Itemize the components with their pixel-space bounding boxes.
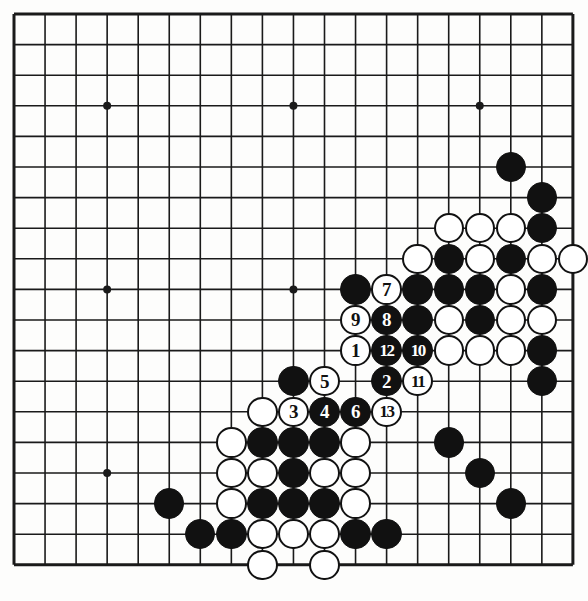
stone-black <box>309 488 339 518</box>
star-point <box>103 469 111 477</box>
stone-white <box>496 305 526 335</box>
stone-black <box>278 458 308 488</box>
numbered-stone-9-white: 9 <box>340 305 370 335</box>
stone-white <box>434 213 464 243</box>
stone-black <box>278 488 308 518</box>
numbered-stone-10-black: 10 <box>402 335 432 365</box>
stone-white <box>278 519 308 549</box>
stone-white <box>340 427 370 457</box>
numbered-stone-7-white: 7 <box>371 274 401 304</box>
stone-black <box>278 427 308 457</box>
stone-black <box>496 244 526 274</box>
stone-black <box>402 305 432 335</box>
numbered-stone-13-white: 13 <box>371 397 401 427</box>
stone-black <box>434 274 464 304</box>
numbered-stone-1-white: 1 <box>340 335 370 365</box>
stone-white <box>216 458 246 488</box>
stone-move-number: 10 <box>411 342 425 359</box>
star-point <box>289 102 297 110</box>
stone-black <box>247 427 277 457</box>
numbered-stone-12-black: 12 <box>371 335 401 365</box>
stone-black <box>278 366 308 396</box>
star-point <box>103 102 111 110</box>
numbered-stone-4-black: 4 <box>309 397 339 427</box>
stone-white <box>340 488 370 518</box>
stone-black <box>434 244 464 274</box>
stone-black <box>465 274 495 304</box>
stone-white <box>340 458 370 488</box>
stone-white <box>309 550 339 580</box>
star-point <box>289 285 297 293</box>
stone-move-number: 2 <box>382 372 391 391</box>
stone-move-number: 4 <box>320 402 329 421</box>
stone-white <box>496 274 526 304</box>
stone-white <box>216 488 246 518</box>
stone-white <box>527 244 557 274</box>
star-point <box>103 285 111 293</box>
stone-white <box>247 458 277 488</box>
stone-white <box>465 244 495 274</box>
stone-white <box>465 335 495 365</box>
numbered-stone-5-white: 5 <box>309 366 339 396</box>
stone-move-number: 8 <box>382 310 391 329</box>
stone-move-number: 9 <box>351 310 360 329</box>
stone-black <box>527 274 557 304</box>
stone-move-number: 1 <box>351 341 360 360</box>
stone-black <box>309 427 339 457</box>
stone-white <box>465 213 495 243</box>
stone-black <box>340 519 370 549</box>
stone-white <box>216 427 246 457</box>
stone-black <box>496 488 526 518</box>
stone-black <box>216 519 246 549</box>
stone-white <box>247 550 277 580</box>
stone-move-number: 3 <box>289 402 298 421</box>
stone-black <box>527 335 557 365</box>
stone-black <box>434 427 464 457</box>
stone-move-number: 11 <box>411 373 424 390</box>
numbered-stone-2-black: 2 <box>371 366 401 396</box>
stone-white <box>309 519 339 549</box>
stone-white <box>247 397 277 427</box>
stone-white <box>558 244 588 274</box>
stone-black <box>465 458 495 488</box>
star-point <box>476 102 484 110</box>
stone-black <box>154 488 184 518</box>
stone-move-number: 5 <box>320 372 329 391</box>
stone-black <box>371 519 401 549</box>
stone-move-number: 12 <box>380 342 394 359</box>
stone-white <box>496 335 526 365</box>
stone-white <box>434 305 464 335</box>
stone-white <box>434 335 464 365</box>
stone-move-number: 6 <box>351 402 360 421</box>
stone-black <box>402 274 432 304</box>
stone-black <box>496 152 526 182</box>
stone-black <box>465 305 495 335</box>
numbered-stone-3-white: 3 <box>278 397 308 427</box>
stone-white <box>527 305 557 335</box>
stone-move-number: 13 <box>380 403 394 420</box>
stone-white <box>309 458 339 488</box>
numbered-stone-8-black: 8 <box>371 305 401 335</box>
stone-move-number: 7 <box>382 280 391 299</box>
stone-white <box>402 244 432 274</box>
stone-black <box>340 274 370 304</box>
go-board-diagram: 79811210521134613 <box>0 0 588 601</box>
numbered-stone-6-black: 6 <box>340 397 370 427</box>
stone-white <box>247 519 277 549</box>
stone-black <box>527 182 557 212</box>
numbered-stone-11-white: 11 <box>402 366 432 396</box>
stone-black <box>247 488 277 518</box>
